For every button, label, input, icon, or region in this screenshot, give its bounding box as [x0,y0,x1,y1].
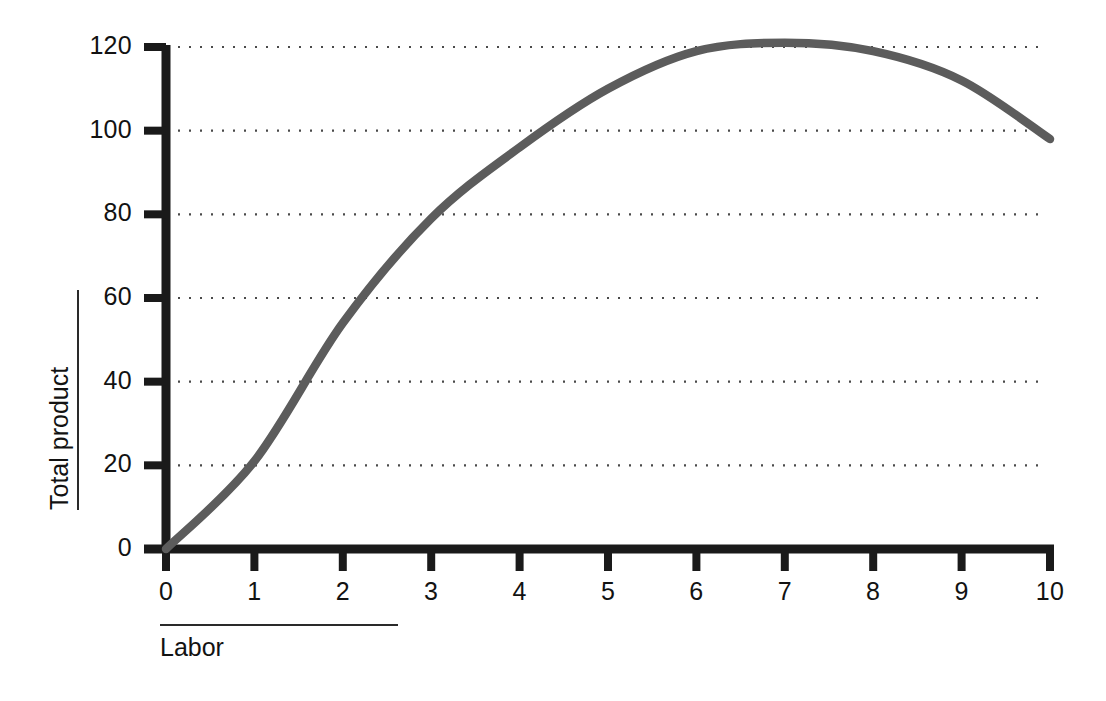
x-tick-label-1: 1 [224,577,284,606]
x-tick-label-10: 10 [1020,577,1080,606]
y-tick-label-40: 40 [62,366,132,395]
y-tick-label-60: 60 [62,282,132,311]
x-tick-label-9: 9 [932,577,992,606]
total-product-chart: Total product Labor 020406080100120 0123… [0,0,1106,701]
y-tick-label-100: 100 [62,115,132,144]
y-tick-label-120: 120 [62,31,132,60]
x-tick-label-7: 7 [755,577,815,606]
x-axis-label: Labor [160,624,398,662]
series-line-total-product [166,43,1050,549]
x-tick-label-3: 3 [401,577,461,606]
y-tick-label-20: 20 [62,449,132,478]
axes-group [144,45,1054,549]
x-tick-label-6: 6 [666,577,726,606]
x-tick-label-4: 4 [490,577,550,606]
x-tick-label-5: 5 [578,577,638,606]
y-tick-label-80: 80 [62,198,132,227]
x-tick-label-0: 0 [136,577,196,606]
gridlines [178,47,1046,465]
x-tick-label-2: 2 [313,577,373,606]
x-tick-label-8: 8 [843,577,903,606]
x-axis-label-text: Labor [160,624,398,662]
total-product-curve [166,43,1050,549]
y-tick-label-0: 0 [62,533,132,562]
